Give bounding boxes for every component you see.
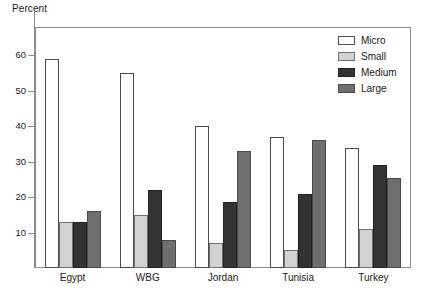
bar-tunisia-medium[interactable] — [298, 194, 312, 268]
legend-swatch-small-icon — [338, 52, 355, 61]
bar-egypt-large[interactable] — [87, 211, 101, 268]
y-axis-tick — [28, 233, 35, 234]
bar-turkey-medium[interactable] — [373, 165, 387, 268]
y-axis-tick — [28, 197, 35, 198]
legend-item-micro[interactable]: Micro — [338, 33, 406, 48]
bar-chart: Percent 102030405060 EgyptWBGJordanTunis… — [0, 0, 430, 296]
bar-wbg-medium[interactable] — [148, 190, 162, 268]
x-axis-tick-label: Egypt — [35, 272, 110, 283]
bar-wbg-small[interactable] — [134, 215, 148, 268]
x-axis-tick-label: Tunisia — [261, 272, 336, 283]
bar-jordan-micro[interactable] — [195, 126, 209, 268]
bar-wbg-micro[interactable] — [120, 73, 134, 268]
x-axis-tick-label: Jordan — [185, 272, 260, 283]
legend-label-large: Large — [361, 84, 387, 94]
legend-label-small: Small — [361, 52, 386, 62]
bar-group — [120, 27, 176, 268]
legend-swatch-micro-icon — [338, 36, 355, 45]
bar-tunisia-small[interactable] — [284, 250, 298, 268]
bar-tunisia-micro[interactable] — [270, 137, 284, 268]
y-axis-tick — [28, 126, 35, 127]
x-axis-labels: EgyptWBGJordanTunisiaTurkey — [35, 270, 411, 292]
legend-swatch-large-icon — [338, 84, 355, 93]
bar-turkey-micro[interactable] — [345, 148, 359, 269]
legend-label-medium: Medium — [361, 68, 397, 78]
legend-item-small[interactable]: Small — [338, 49, 406, 64]
bar-group — [195, 27, 251, 268]
legend-swatch-medium-icon — [338, 68, 355, 77]
y-axis-tick — [28, 91, 35, 92]
y-axis-tick-label: 10 — [2, 228, 26, 238]
bar-egypt-medium[interactable] — [73, 222, 87, 268]
bar-egypt-small[interactable] — [59, 222, 73, 268]
bar-group — [270, 27, 326, 268]
bar-wbg-large[interactable] — [162, 240, 176, 268]
legend-item-large[interactable]: Large — [338, 81, 406, 96]
legend-item-medium[interactable]: Medium — [338, 65, 406, 80]
y-axis-tick-label: 60 — [2, 50, 26, 60]
y-axis-tick-label: 20 — [2, 192, 26, 202]
legend-label-micro: Micro — [361, 36, 385, 46]
bar-turkey-small[interactable] — [359, 229, 373, 268]
chart-legend: Micro Small Medium Large — [333, 28, 410, 102]
x-axis-tick-label: Turkey — [336, 272, 411, 283]
bar-group — [45, 27, 101, 268]
y-axis-labels: 102030405060 — [0, 0, 26, 296]
y-axis-tick-label: 30 — [2, 157, 26, 167]
bar-egypt-micro[interactable] — [45, 59, 59, 268]
bar-tunisia-large[interactable] — [312, 140, 326, 268]
bar-jordan-medium[interactable] — [223, 202, 237, 268]
bar-jordan-small[interactable] — [209, 243, 223, 268]
y-axis-tick-label: 40 — [2, 121, 26, 131]
bar-jordan-large[interactable] — [237, 151, 251, 268]
y-axis-tick — [28, 162, 35, 163]
bar-turkey-large[interactable] — [387, 178, 401, 268]
y-axis-tick-label: 50 — [2, 86, 26, 96]
y-axis-tick — [28, 55, 35, 56]
x-axis-tick-label: WBG — [110, 272, 185, 283]
